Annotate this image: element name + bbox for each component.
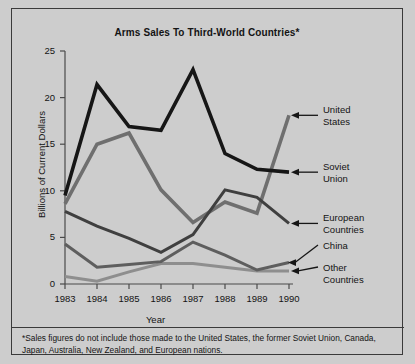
callout-arrow-european-countries <box>291 220 318 227</box>
plot-area: Billions of Current Dollars Year 0510152… <box>12 9 404 356</box>
series-label-other-countries: Other Countries <box>323 262 364 285</box>
series-label-china: China <box>323 240 348 252</box>
callout-arrow-soviet-union <box>291 169 318 176</box>
y-tick-label-5: 5 <box>29 232 55 242</box>
series-line-china <box>65 242 289 270</box>
series-label-soviet-union: Soviet Union <box>323 161 349 184</box>
callout-arrows <box>288 112 318 274</box>
y-tick-label-20: 20 <box>29 93 55 103</box>
callout-arrow-united-states <box>291 112 318 119</box>
x-tick-label-1990: 1990 <box>269 294 309 304</box>
series-paths <box>65 70 289 282</box>
callout-arrow-china <box>288 245 318 266</box>
series-label-european-countries: European Countries <box>323 212 364 235</box>
y-tick-label-25: 25 <box>29 46 55 56</box>
series-label-united-states: United States <box>323 104 350 127</box>
callout-arrow-other-countries <box>291 267 318 274</box>
x-axis-label: Year <box>12 314 299 325</box>
y-axis-label: Billions of Current Dollars <box>36 85 47 245</box>
footnote-text: *Sales figures do not include those made… <box>22 333 394 356</box>
y-tick-label-0: 0 <box>29 279 55 289</box>
y-tick-label-15: 15 <box>29 139 55 149</box>
footnote-divider <box>12 327 404 328</box>
y-tick-label-10: 10 <box>29 186 55 196</box>
series-line-european-countries <box>65 190 289 252</box>
series-line-soviet-union <box>65 70 289 196</box>
figure-frame: Arms Sales To Third-World Countries* Bil… <box>11 8 403 355</box>
